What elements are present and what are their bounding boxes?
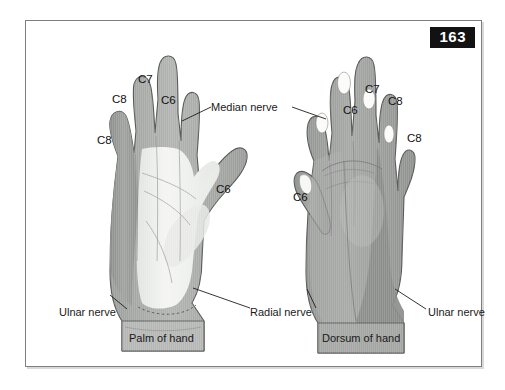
figure-page: 163 — [0, 0, 505, 390]
dermatome-dorsum-thumb-c6: C6 — [293, 191, 308, 203]
leader-radial-palm — [193, 288, 250, 308]
dermatome-dorsum-index-c6: C6 — [343, 104, 358, 116]
dermatome-palm-thumb-c6: C6 — [216, 183, 231, 195]
dermatome-palm-ring-c8: C8 — [112, 93, 127, 105]
figure-frame: 163 — [25, 20, 482, 367]
label-median-nerve: Median nerve — [211, 101, 278, 113]
dermatome-palm-little-c8: C8 — [97, 134, 112, 146]
caption-palm-of-hand: Palm of hand — [129, 332, 194, 344]
dermatome-palm-middle-c7: C7 — [138, 73, 153, 85]
page-number-badge: 163 — [430, 27, 475, 48]
dermatome-palm-index-c6: C6 — [161, 94, 176, 106]
dermatome-dorsum-middle-c7: C7 — [365, 83, 380, 95]
dermatome-dorsum-ring-c8: C8 — [388, 95, 403, 107]
label-ulnar-nerve-dorsum: Ulnar nerve — [428, 306, 485, 318]
caption-dorsum-of-hand: Dorsum of hand — [322, 332, 400, 344]
label-ulnar-nerve-palm: Ulnar nerve — [59, 306, 116, 318]
label-radial-nerve: Radial nerve — [250, 306, 312, 318]
dermatome-dorsum-little-c8: C8 — [407, 132, 422, 144]
